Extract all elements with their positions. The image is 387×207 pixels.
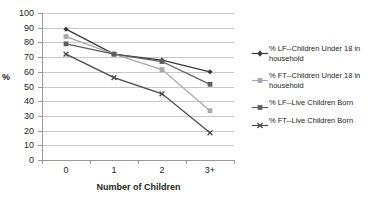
plot-area	[42, 13, 234, 160]
x-tick-label-0: 0	[51, 166, 81, 175]
gridline-100	[42, 13, 234, 14]
y-tickmark-20	[38, 131, 42, 132]
x-tickmark-end	[234, 160, 235, 164]
y-tick-label-20: 20	[4, 127, 34, 136]
x-tickmark-2	[138, 160, 139, 164]
x-tick-label-2: 2	[147, 166, 177, 175]
gridline-20	[42, 131, 234, 132]
y-tickmark-50	[38, 87, 42, 88]
y-tickmark-30	[38, 116, 42, 117]
y-tick-label-70: 70	[4, 53, 34, 62]
legend-item-lf-live-children-born[interactable]: % LF--Live Children Born	[252, 98, 387, 109]
y-tick-label-90: 90	[4, 24, 34, 33]
x-tickmark-start	[42, 160, 43, 164]
gridline-90	[42, 28, 234, 29]
legend-label: % LF--Children Under 18 in household	[269, 44, 387, 64]
y-axis-line	[42, 13, 43, 161]
y-tickmark-80	[38, 42, 42, 43]
legend-square-marker-icon	[252, 72, 268, 83]
y-tick-label-30: 30	[4, 112, 34, 121]
gridline-50	[42, 87, 234, 88]
x-axis-title: Number of Children	[42, 182, 235, 192]
y-tickmark-90	[38, 28, 42, 29]
x-tickmark-3	[186, 160, 187, 164]
x-tick-label-3: 3+	[195, 166, 225, 175]
gridline-80	[42, 42, 234, 43]
y-tick-label-100: 100	[4, 9, 34, 18]
y-tick-label-80: 80	[4, 38, 34, 47]
legend-square-dark-marker-icon	[252, 99, 268, 110]
y-tickmark-10	[38, 145, 42, 146]
y-tickmark-70	[38, 57, 42, 58]
chart-legend: % LF--Children Under 18 in household % F…	[252, 44, 387, 134]
legend-label: % FT--Children Under 18 in household	[269, 71, 387, 91]
legend-diamond-marker-icon	[252, 45, 268, 56]
gridline-40	[42, 101, 234, 102]
gridline-70	[42, 57, 234, 58]
y-tick-label-0: 0	[4, 156, 34, 165]
x-tickmark-1	[90, 160, 91, 164]
legend-cross-marker-icon	[252, 117, 268, 128]
gridline-10	[42, 145, 234, 146]
x-tick-label-1: 1	[99, 166, 129, 175]
y-tick-label-50: 50	[4, 83, 34, 92]
gridline-60	[42, 72, 234, 73]
legend-item-ft-live-children-born[interactable]: % FT--Live Children Born	[252, 116, 387, 127]
y-tickmark-40	[38, 101, 42, 102]
y-tickmark-100	[38, 13, 42, 14]
y-tick-label-40: 40	[4, 97, 34, 106]
legend-item-ft-children-under-18[interactable]: % FT--Children Under 18 in household	[252, 71, 387, 91]
line-chart: 100 90 80 70 60 50 40 30 20 10 0 % 0 1 2…	[0, 0, 387, 207]
legend-label: % LF--Live Children Born	[269, 98, 353, 108]
y-tick-label-10: 10	[4, 141, 34, 150]
y-tickmark-60	[38, 72, 42, 73]
legend-item-lf-children-under-18[interactable]: % LF--Children Under 18 in household	[252, 44, 387, 64]
legend-label: % FT--Live Children Born	[269, 116, 353, 126]
y-axis-title: %	[2, 73, 10, 82]
gridline-30	[42, 116, 234, 117]
